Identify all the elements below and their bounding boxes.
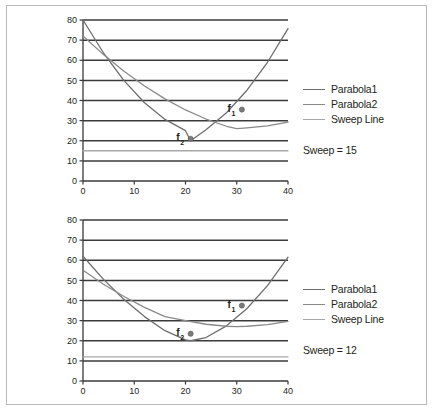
legend-item-parabola1: Parabola1 (303, 82, 427, 97)
y-tick-label-10: 10 (67, 156, 77, 166)
x-tick-label-40: 40 (283, 186, 293, 196)
legend-label-parabola2: Parabola2 (331, 99, 377, 110)
y-tick-label-80: 80 (67, 15, 77, 25)
point-subscript-f2: 2 (180, 139, 184, 146)
legend-swatch-sweep-line (303, 319, 325, 320)
x-tick-label-0: 0 (80, 186, 85, 196)
legend-swatch-parabola2 (303, 104, 325, 105)
y-tick-label-30: 30 (67, 116, 77, 126)
y-tick-label-50: 50 (67, 76, 77, 86)
y-tick-label-10: 10 (67, 356, 77, 366)
y-tick-label-40: 40 (67, 96, 77, 106)
legend-item-parabola1: Parabola1 (303, 282, 427, 297)
y-tick-label-50: 50 (67, 276, 77, 286)
y-tick-label-30: 30 (67, 316, 77, 326)
legend-swatch-sweep-line (303, 119, 325, 120)
point-subscript-f1: 1 (231, 110, 235, 117)
series-parabola1 (83, 256, 288, 341)
legend-bottom: Parabola1 Parabola2 Sweep Line (303, 282, 427, 327)
y-tick-label-80: 80 (67, 215, 77, 225)
legend-item-sweep-line: Sweep Line (303, 312, 427, 327)
legend-item-parabola2: Parabola2 (303, 97, 427, 112)
x-tick-label-40: 40 (283, 386, 293, 396)
legend-swatch-parabola1 (303, 89, 325, 90)
y-tick-label-60: 60 (67, 255, 77, 265)
sweep-value-bottom: Sweep = 12 (303, 344, 357, 356)
legend-label-parabola1: Parabola1 (331, 84, 377, 95)
series-parabola2 (83, 270, 288, 326)
y-tick-label-60: 60 (67, 55, 77, 65)
legend-swatch-parabola2 (303, 304, 325, 305)
y-tick-label-40: 40 (67, 296, 77, 306)
legend-item-sweep-line: Sweep Line (303, 112, 427, 127)
chart-panel-top: 01020304050607080010203040f1f2 Parabola1… (7, 6, 426, 205)
figure-frame: 01020304050607080010203040f1f2 Parabola1… (6, 5, 427, 405)
x-tick-label-30: 30 (232, 186, 242, 196)
y-tick-label-20: 20 (67, 336, 77, 346)
legend-swatch-parabola1 (303, 289, 325, 290)
y-tick-label-70: 70 (67, 235, 77, 245)
y-tick-label-0: 0 (72, 376, 77, 386)
point-subscript-f1: 1 (231, 306, 235, 313)
series-parabola2 (83, 36, 288, 129)
y-tick-label-0: 0 (72, 176, 77, 186)
point-marker-f1 (239, 107, 244, 112)
legend-label-sweep-line: Sweep Line (331, 114, 384, 125)
x-tick-label-0: 0 (80, 386, 85, 396)
point-marker-f2 (188, 136, 193, 141)
point-marker-f1 (239, 303, 244, 308)
y-tick-label-20: 20 (67, 136, 77, 146)
legend-label-sweep-line: Sweep Line (331, 314, 384, 325)
legend-item-parabola2: Parabola2 (303, 297, 427, 312)
chart-panel-bottom: 01020304050607080010203040f1f2 Parabola1… (7, 206, 426, 405)
point-marker-f2 (188, 331, 193, 336)
y-tick-label-70: 70 (67, 35, 77, 45)
point-subscript-f2: 2 (180, 334, 184, 341)
x-tick-label-30: 30 (232, 386, 242, 396)
x-tick-label-10: 10 (129, 386, 139, 396)
sweep-value-top: Sweep = 15 (303, 144, 357, 156)
legend-top: Parabola1 Parabola2 Sweep Line (303, 82, 427, 127)
legend-label-parabola2: Parabola2 (331, 299, 377, 310)
legend-label-parabola1: Parabola1 (331, 284, 377, 295)
x-tick-label-20: 20 (180, 186, 190, 196)
x-tick-label-10: 10 (129, 186, 139, 196)
x-tick-label-20: 20 (180, 386, 190, 396)
